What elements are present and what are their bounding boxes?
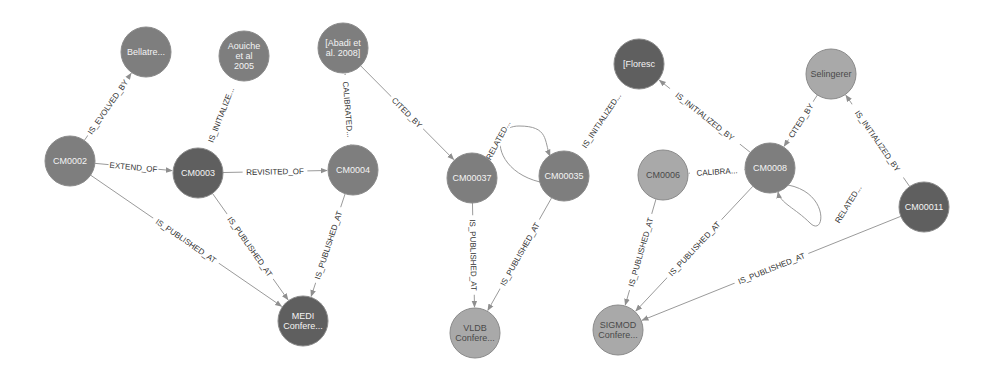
node-label: Aouiche xyxy=(228,41,261,51)
edge-label: CITED_BY xyxy=(390,96,424,131)
edge-label-group: CITED_BY xyxy=(784,99,817,142)
graph-edge[interactable]: REVISITED_OF xyxy=(223,166,327,177)
edge-label-group: IS_INITIALIZED_BY xyxy=(667,85,743,148)
graph-edge[interactable]: IS_INITIALIZED... xyxy=(572,81,630,161)
graph-edge[interactable]: IS_PUBLISHED_AT xyxy=(212,193,287,299)
node-label: Selingerer xyxy=(810,69,851,79)
node-label: CM0004 xyxy=(336,165,370,175)
graph-edge[interactable]: IS_PUBLISHED_AT xyxy=(468,203,480,307)
edge-label: IS_PUBLISHED_AT xyxy=(627,216,656,287)
edge-label-group: CALIBRA... xyxy=(689,165,745,179)
node-label: al. 2008] xyxy=(326,48,361,58)
edge-label: IS_EVOLVED_BY xyxy=(86,78,131,136)
edge-label-group: CALIBRATED... xyxy=(340,74,356,144)
node-label: CM00037 xyxy=(452,173,491,183)
edge-label: EXTEND_OF xyxy=(109,161,158,174)
edge-label: CITED_BY xyxy=(787,101,816,139)
edge-label: IS_PUBLISHED_AT xyxy=(737,251,807,286)
edge-label: IS_PUBLISHED_AT xyxy=(154,217,218,265)
edge-label-group: IS_INITIALIZED... xyxy=(572,81,630,161)
graph-edge[interactable]: IS_PUBLISHED_AT xyxy=(488,198,552,311)
node-label: [Floresc xyxy=(623,59,656,69)
edge-label: IS_INITIALIZE... xyxy=(206,86,236,144)
edge-label: CALIBRATED... xyxy=(341,81,355,138)
edge-label-group: REVISITED_OF xyxy=(243,166,308,177)
edge-label: RELATED... xyxy=(484,119,512,161)
graph-edge[interactable]: CALIBRATED... xyxy=(340,74,356,145)
graph-edge[interactable]: IS_INITIALIZED_BY xyxy=(846,95,910,186)
edge-label-group: IS_INITIALIZE... xyxy=(201,74,241,156)
edge-label: REVISITED_OF xyxy=(246,167,304,177)
edge-label-group: IS_PUBLISHED_AT xyxy=(496,217,544,291)
node-label: Confere... xyxy=(455,333,495,343)
graph-node[interactable]: [Abadi etal. 2008] xyxy=(318,23,368,73)
node-label: VLDB xyxy=(463,323,487,333)
edge-label: IS_PUBLISHED_AT xyxy=(313,210,344,281)
graph-node[interactable]: [Floresc xyxy=(614,39,664,89)
node-label: CM0002 xyxy=(53,156,87,166)
graph-node[interactable]: Aouicheet al2005 xyxy=(219,31,269,81)
edge-label: IS_INITIALIZED_BY xyxy=(673,91,736,144)
nodes-layer: Bellatre...Aouicheet al2005[Abadi etal. … xyxy=(45,23,949,358)
graph-node[interactable]: Bellatre... xyxy=(121,27,171,77)
graph-node[interactable]: Selingerer xyxy=(806,49,856,99)
graph-node[interactable]: SIGMODConfere... xyxy=(593,305,643,355)
edge-label-group: IS_EVOLVED_BY xyxy=(84,75,132,138)
node-label: CM0008 xyxy=(753,163,787,173)
edge-label: IS_PUBLISHED_AT xyxy=(667,220,723,278)
graph-edge[interactable]: IS_PUBLISHED_AT xyxy=(311,194,345,297)
knowledge-graph-canvas[interactable]: IS_EVOLVED_BYEXTEND_OFIS_PUBLISHED_ATIS_… xyxy=(0,0,998,371)
edge-label: IS_PUBLISHED_AT xyxy=(468,219,478,291)
node-label: Confere... xyxy=(283,321,323,331)
edge-label-group: IS_PUBLISHED_AT xyxy=(468,215,480,295)
graph-edge[interactable]: EXTEND_OF xyxy=(95,160,172,175)
edge-label: IS_INITIALIZED_BY xyxy=(853,109,902,174)
graph-edge[interactable]: IS_PUBLISHED_AT xyxy=(636,186,753,311)
node-label: MEDI xyxy=(292,311,315,321)
node-label: 2005 xyxy=(234,61,254,71)
graph-edge[interactable]: IS_INITIALIZE... xyxy=(201,74,241,156)
graph-node[interactable]: CM0008 xyxy=(745,143,795,193)
graph-edge[interactable]: IS_INITIALIZED_BY xyxy=(659,80,750,152)
edge-label: RELATED... xyxy=(833,184,863,225)
graph-node[interactable]: CM00037 xyxy=(447,153,497,203)
edge-label: IS_PUBLISHED_AT xyxy=(225,215,274,279)
edge-label: IS_PUBLISHED_AT xyxy=(499,221,542,288)
node-label: CM0006 xyxy=(646,170,680,180)
graph-edge[interactable]: CITED_BY xyxy=(784,95,817,146)
edge-label-group: RELATED... xyxy=(829,178,867,230)
graph-node[interactable]: VLDBConfere... xyxy=(450,308,500,358)
edge-label-group: IS_INITIALIZED_BY xyxy=(848,101,907,180)
node-label: Confere... xyxy=(598,330,638,340)
node-label: [Abadi et xyxy=(325,38,361,48)
graph-edge[interactable]: RELATED... xyxy=(778,178,867,230)
graph-node[interactable]: CM0003 xyxy=(173,148,223,198)
graph-edge[interactable]: CALIBRA... xyxy=(689,165,745,179)
graph-edge[interactable]: CITED_BY xyxy=(361,66,454,160)
graph-node[interactable]: CM00035 xyxy=(539,151,589,201)
edge-label: IS_INITIALIZED... xyxy=(580,92,623,150)
graph-node[interactable]: CM00011 xyxy=(899,182,949,232)
edge-label: CALIBRA... xyxy=(696,166,737,178)
edge-label-group: IS_PUBLISHED_AT xyxy=(150,214,221,267)
node-label: SIGMOD xyxy=(600,320,637,330)
edge-label-group: CITED_BY xyxy=(388,93,427,132)
node-label: CM00011 xyxy=(905,202,943,212)
edge-line xyxy=(778,185,821,226)
edge-label-group: IS_PUBLISHED_AT xyxy=(625,212,657,291)
graph-node[interactable]: MEDIConfere... xyxy=(278,296,328,346)
edge-label-group: EXTEND_OF xyxy=(108,160,159,175)
node-label: Bellatre... xyxy=(127,47,165,57)
edge-label-group: IS_PUBLISHED_AT xyxy=(663,216,725,281)
graph-edge[interactable]: IS_EVOLVED_BY xyxy=(84,73,132,140)
graph-node[interactable]: CM0004 xyxy=(328,145,378,195)
graph-node[interactable]: CM0006 xyxy=(638,150,688,200)
edge-label-group: IS_PUBLISHED_AT xyxy=(311,206,345,285)
node-label: CM0003 xyxy=(181,168,215,178)
node-label: et al xyxy=(235,51,252,61)
node-label: CM00035 xyxy=(544,171,583,181)
graph-node[interactable]: CM0002 xyxy=(45,136,95,186)
graph-edge[interactable]: IS_PUBLISHED_AT xyxy=(625,199,657,305)
edge-label-group: IS_PUBLISHED_AT xyxy=(733,249,810,288)
